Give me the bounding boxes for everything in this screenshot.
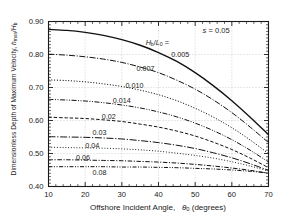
y-tick-label: 0.40	[18, 182, 44, 191]
x-axis-units: (degrees)	[192, 203, 226, 212]
chart-figure: 10203040506070 0.400.500.600.700.800.90 …	[0, 0, 283, 221]
group-equals: =	[165, 38, 169, 47]
series-label-0.010: 0.010	[126, 81, 144, 90]
x-tick-label: 10	[36, 190, 62, 199]
x-tick-label: 20	[72, 190, 98, 199]
y-axis-symbol-numerator-sub: mxa	[13, 32, 18, 41]
curve-layer	[49, 29, 269, 173]
y-tick-label: 0.60	[18, 116, 44, 125]
series-label-0.06: 0.06	[76, 153, 90, 162]
slope-value: = 0.05	[208, 26, 229, 35]
series-group-header: Hb/L0 =	[146, 38, 169, 47]
x-axis-label-text: Offshore Incident Angle,	[90, 203, 175, 212]
x-tick-label: 30	[109, 190, 135, 199]
slope-annotation: s = 0.05	[203, 26, 230, 35]
y-tick-label: 0.70	[18, 83, 44, 92]
y-tick-label: 0.90	[18, 17, 44, 26]
group-denominator-sub: 0	[160, 41, 163, 47]
series-label-0.08: 0.08	[93, 168, 107, 177]
y-axis-symbol-denominator: H	[10, 25, 17, 30]
x-axis-label: Offshore Incident Angle, θ0 (degrees)	[48, 203, 268, 212]
x-tick-label: 60	[219, 190, 245, 199]
series-label-0.03: 0.03	[93, 128, 107, 137]
x-tick-label: 70	[256, 190, 282, 199]
y-axis-label: Dimensionless Depth of Maximum Velocity,…	[10, 14, 18, 184]
series-label-0.04: 0.04	[85, 141, 99, 150]
series-label-0.005: 0.005	[171, 50, 189, 59]
x-tick-label: 40	[146, 190, 172, 199]
x-tick-label: 50	[182, 190, 208, 199]
y-axis-slash: /	[10, 30, 17, 32]
series-label-0.007: 0.007	[137, 64, 155, 73]
y-tick-label: 0.80	[18, 50, 44, 59]
x-axis-symbol-sub: 0	[186, 206, 189, 212]
series-label-0.014: 0.014	[113, 96, 131, 105]
series-label-0.02: 0.02	[102, 112, 116, 121]
y-axis-symbol-denominator-sub: b	[13, 23, 18, 26]
slope-symbol: s	[203, 26, 207, 35]
y-axis-label-text: Dimensionless Depth of Maximum Velocity,	[10, 47, 17, 176]
y-tick-label: 0.50	[18, 149, 44, 158]
y-axis-symbol-numerator: h	[10, 41, 17, 45]
